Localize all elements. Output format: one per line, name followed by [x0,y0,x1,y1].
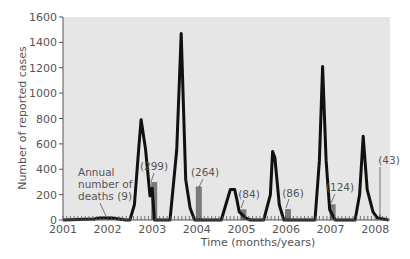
y-tick-label: 1000 [29,87,57,100]
x-tick-label: 2006 [272,223,300,236]
y-axis-title: Number of reported cases [16,46,29,190]
annotation-text: (299) [140,160,168,172]
x-tick-label: 2002 [94,223,122,236]
chart: 02004006008001000120014001600 2001200220… [0,0,410,259]
x-tick-label: 2004 [183,223,211,236]
x-tick-label: 2007 [317,223,345,236]
annotation-text: (264) [191,166,219,178]
annotation-text: (124) [326,181,354,193]
annotation-text: deaths (9) [78,190,132,202]
y-tick-label: 1200 [29,62,57,75]
y-axis-ticks: 02004006008001000120014001600 [29,11,63,227]
y-tick-label: 800 [36,113,57,126]
y-tick-label: 400 [36,163,57,176]
y-tick-label: 600 [36,138,57,151]
x-tick-label: 2008 [361,223,389,236]
annotation-text: (86) [282,187,304,199]
y-tick-label: 1600 [29,11,57,24]
x-tick-label: 2003 [138,223,166,236]
x-tick-label: 2005 [227,223,255,236]
x-tick-label: 2001 [49,223,77,236]
y-tick-label: 200 [36,189,57,202]
annotation-text: (43) [378,154,400,166]
death-bar [196,186,202,220]
y-tick-label: 1400 [29,36,57,49]
annotation-text: (84) [238,188,260,200]
x-axis-title: Time (months/years) [200,236,315,249]
annotation-text: number of [78,178,133,190]
x-axis-ticks: 20012002200320042005200620072008 [49,223,389,236]
annotation-text: Annual [78,166,115,178]
